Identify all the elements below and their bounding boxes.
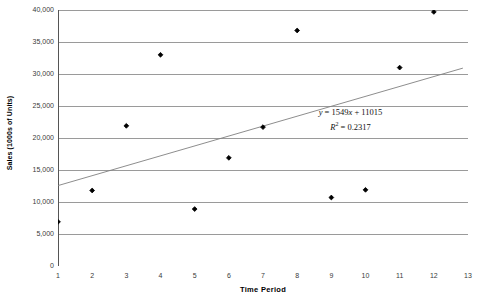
x-axis-tick-label: 7 [253, 272, 273, 279]
y-axis-tick-label: 15,000 [14, 166, 54, 173]
y-axis-tick-labels: 05,00010,00015,00020,00025,00030,00035,0… [12, 0, 54, 303]
data-point-marker [90, 188, 95, 193]
data-point-marker [363, 187, 368, 192]
regression-equation: y = 1549x + 11015 [283, 106, 418, 118]
x-axis-tick-label: 3 [116, 272, 136, 279]
y-axis-tick-label: 0 [14, 262, 54, 269]
trendline-equation-annotation: y = 1549x + 11015 R2 = 0.2317 [283, 106, 418, 133]
y-axis-tick-label: 25,000 [14, 102, 54, 109]
plot-area [58, 10, 468, 266]
y-axis-tick-label: 10,000 [14, 198, 54, 205]
y-axis-tick-label: 35,000 [14, 38, 54, 45]
r-squared-value: R2 = 0.2317 [283, 118, 418, 133]
x-axis-tick-label: 6 [219, 272, 239, 279]
data-point-marker [329, 195, 334, 200]
plot-canvas [58, 10, 468, 266]
y-axis-tick-label: 40,000 [14, 6, 54, 13]
y-axis-tick-label: 30,000 [14, 70, 54, 77]
y-axis-tick-label: 5,000 [14, 230, 54, 237]
x-axis-tick-label: 10 [356, 272, 376, 279]
data-point-marker [124, 123, 129, 128]
data-point-marker [226, 155, 231, 160]
x-axis-tick-label: 13 [458, 272, 478, 279]
data-point-marker [295, 28, 300, 33]
x-axis-tick-label: 12 [424, 272, 444, 279]
x-axis-tick-label: 5 [185, 272, 205, 279]
x-axis-tick-label: 2 [82, 272, 102, 279]
scatter-chart: Sales (1000s of Units) 05,00010,00015,00… [0, 0, 483, 303]
x-axis-tick-label: 8 [287, 272, 307, 279]
data-point-marker [192, 207, 197, 212]
y-axis-tick-label: 20,000 [14, 134, 54, 141]
x-axis-tick-label: 11 [390, 272, 410, 279]
x-axis-tick-label: 9 [321, 272, 341, 279]
data-point-marker [397, 65, 402, 70]
x-axis-tick-label: 1 [48, 272, 68, 279]
data-point-marker [158, 52, 163, 57]
data-point-marker [431, 10, 436, 14]
x-axis-tick-label: 4 [151, 272, 171, 279]
x-axis-title: Time Period [58, 285, 468, 294]
data-point-marker [58, 219, 60, 224]
